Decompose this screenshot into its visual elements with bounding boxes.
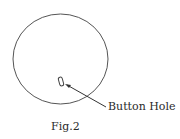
arrowhead-icon <box>65 84 71 88</box>
callout-arrow-line <box>67 85 106 107</box>
callout-label: Button Hole <box>108 100 175 113</box>
button-hole-icon <box>58 77 64 87</box>
figure-diagram <box>0 0 180 139</box>
figure-caption: Fig.2 <box>51 120 80 133</box>
circle-outline <box>13 14 108 104</box>
